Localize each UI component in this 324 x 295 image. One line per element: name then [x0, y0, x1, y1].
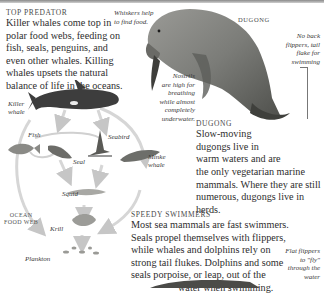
- squid-label: Squid: [62, 190, 78, 198]
- title-line: food web: [4, 219, 38, 226]
- text-line: Seals propel themselves with flippers,: [131, 232, 306, 245]
- caption-line: water: [268, 273, 320, 282]
- label-line: whale: [8, 108, 25, 116]
- caption-line: swimming: [262, 58, 320, 67]
- caption-line: through the: [268, 264, 320, 273]
- seal-illustration: [150, 278, 260, 288]
- caption-line: No back: [262, 32, 320, 41]
- title-line: Ocean: [4, 212, 38, 219]
- no-back-flippers-caption: No back flippers, tail flake for swimmin…: [262, 32, 320, 66]
- text-line: dugongs live in: [196, 141, 324, 154]
- dugong-section-text-cont2: the only vegetarian marine mammals. Wher…: [196, 166, 324, 216]
- plankton-label: Plankton: [25, 255, 50, 263]
- leader-line: [307, 67, 308, 119]
- label-line: Minke: [148, 153, 166, 161]
- text-line: mammals. Where they are still: [196, 179, 324, 192]
- killer-whale-label: Killer whale: [8, 100, 25, 116]
- krill-label: Krill: [50, 225, 63, 233]
- dugong-section-heading: Dugong: [196, 119, 232, 128]
- label-line: Killer: [8, 100, 25, 108]
- seal-label: Seal: [73, 158, 85, 166]
- text-line: Slow-moving: [196, 128, 324, 141]
- dugong-label: Dugong: [238, 16, 270, 23]
- fish-label: Fish: [28, 131, 40, 139]
- dugong-section-text-cont: warm waters and are: [196, 153, 324, 166]
- speedy-swimmers-heading: Speedy swimmers: [131, 210, 211, 219]
- seabird-label: Seabird: [108, 133, 130, 141]
- text-line: numerous, dugongs live in herds.: [196, 191, 324, 216]
- text-line: Most sea mammals are fast swimmers.: [131, 219, 306, 232]
- text-line: warm waters and are: [196, 153, 324, 166]
- minke-whale-label: Minke whale: [148, 153, 166, 169]
- caption-line: flippers, tail: [262, 41, 320, 50]
- ocean-food-web-title: Ocean food web: [4, 212, 38, 226]
- leader-line: [300, 67, 308, 68]
- dugong-section-text: Slow-moving dugongs live in: [196, 128, 324, 153]
- text-line: the only vegetarian marine: [196, 166, 324, 179]
- caption-line: to "fly": [268, 256, 320, 265]
- flat-flippers-caption: Flat flippers to "fly" through the water: [268, 247, 320, 281]
- label-line: whale: [148, 161, 166, 169]
- caption-line: Flat flippers: [268, 247, 320, 256]
- caption-line: flake for: [262, 49, 320, 58]
- top-predator-heading: Top predator: [6, 8, 67, 17]
